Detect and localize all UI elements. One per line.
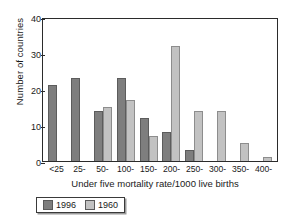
bar [71,78,80,161]
chart-figure: Number of countries 010203040 <2525-50-1… [0,0,295,220]
legend-item: 1996 [43,200,76,210]
bar-group [114,19,137,161]
x-tick-label: 200- [160,164,183,176]
x-tick-label: 300- [206,164,229,176]
bar [117,78,126,161]
bar [94,111,103,161]
x-tick-label: 100- [114,164,137,176]
legend-swatch-icon [43,200,53,210]
bar [140,118,149,161]
bar [240,143,249,161]
chart-legend: 19961960 [36,197,125,213]
bar [126,100,135,161]
bar [194,111,203,161]
legend-swatch-icon [85,200,95,210]
bar-group [183,19,206,161]
bar [263,157,272,161]
y-tick-label: 10 [22,123,41,131]
bar-group [46,19,69,161]
legend-label: 1960 [98,200,118,210]
x-axis-label: Under five mortality rate/1000 live birt… [30,178,280,189]
legend-item: 1960 [85,200,118,210]
bar [162,132,171,161]
x-tick-label: 150- [137,164,160,176]
bar [149,136,158,161]
bar-group [160,19,183,161]
bar-group [251,19,274,161]
bar-group [206,19,229,161]
bar [185,150,194,161]
bar-group [92,19,115,161]
y-tick-label: 0 [22,159,41,167]
y-tick-label: 20 [22,87,41,95]
bar [48,85,57,161]
bar [217,111,226,161]
plot-area: 010203040 [42,18,278,162]
bar-series-container [43,19,277,161]
x-axis-ticks: <2525-50-100-150-200-250-300-350-400- [42,164,278,176]
y-tick-label: 40 [22,15,41,23]
legend-label: 1996 [56,200,76,210]
x-tick-label: 350- [229,164,252,176]
x-tick-label: 50- [91,164,114,176]
bar [171,46,180,161]
x-tick-label: 25- [68,164,91,176]
x-tick-label: 400- [252,164,275,176]
y-tick-label: 30 [22,51,41,59]
bar [103,107,112,161]
bar-group [228,19,251,161]
x-tick-label: 250- [183,164,206,176]
bar-group [137,19,160,161]
bar-group [69,19,92,161]
x-tick-label: <25 [45,164,68,176]
